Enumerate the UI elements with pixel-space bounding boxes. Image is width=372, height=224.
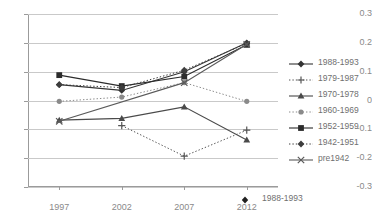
series-line — [59, 45, 247, 86]
data-point — [243, 127, 250, 134]
data-point — [118, 122, 125, 129]
gridline — [28, 187, 278, 188]
series-pre1942 — [56, 41, 250, 124]
y-axis-tick-label: -0.3 — [348, 182, 372, 191]
legend-item-label: 1942-1951 — [318, 136, 359, 148]
x-axis-tick-label: 2007 — [164, 202, 204, 212]
data-point — [119, 94, 124, 99]
plot-area — [28, 14, 278, 187]
x-axis-tick-label: 2002 — [102, 202, 142, 212]
plus-marker-icon — [288, 72, 314, 84]
legend-item-1952-1959[interactable]: 1952-1959 — [288, 118, 372, 134]
data-point — [56, 81, 63, 88]
legend-item-label: 1979-1987 — [318, 72, 359, 84]
series-line — [59, 43, 247, 91]
data-point — [181, 74, 187, 80]
legend: 1988-19931979-19871970-19781960-19691952… — [288, 54, 372, 166]
diamond-marker-icon — [232, 192, 258, 204]
series-1952-1959 — [56, 42, 249, 89]
y-axis-tick-label: 0.3 — [348, 9, 372, 18]
x-axis-tick-mark — [59, 186, 60, 190]
data-point — [181, 153, 188, 160]
legend-item-label: 1952-1959 — [318, 120, 359, 132]
legend-item-1979-1987[interactable]: 1979-1987 — [288, 70, 372, 86]
data-point — [57, 99, 62, 104]
x-axis-tick-mark — [184, 186, 185, 190]
data-point — [244, 99, 249, 104]
x-axis-tick-label: 1997 — [39, 202, 79, 212]
legend-item-label: pre1942 — [318, 152, 349, 164]
legend-item-label: 1970-1978 — [318, 88, 359, 100]
stray-legend-item: 1988-1993 — [232, 192, 303, 204]
legend-item-label: 1960-1969 — [318, 104, 359, 116]
series-1970-1978 — [56, 103, 250, 142]
data-point — [181, 103, 188, 109]
chart-title — [0, 0, 372, 4]
legend-item-1970-1978[interactable]: 1970-1978 — [288, 86, 372, 102]
series-1942-1951 — [56, 40, 250, 91]
stray-legend-label: 1988-1993 — [262, 192, 303, 204]
legend-item-pre1942[interactable]: pre1942 — [288, 150, 372, 166]
chart-container: 0.30.20.10-0.1-0.2-0.3 1997200220072012 … — [0, 0, 372, 224]
data-point — [243, 137, 250, 143]
legend-item-1960-1969[interactable]: 1960-1969 — [288, 102, 372, 118]
series-line — [59, 107, 247, 140]
series-1979-1987 — [118, 122, 250, 160]
diamond-marker-icon — [288, 56, 314, 68]
triangle-marker-icon — [288, 88, 314, 100]
series-layer — [28, 14, 278, 187]
data-point — [56, 72, 62, 78]
x-axis-tick-mark — [247, 186, 248, 190]
legend-item-1942-1951[interactable]: 1942-1951 — [288, 134, 372, 150]
diamond-marker-icon — [288, 136, 314, 148]
square-marker-icon — [288, 120, 314, 132]
x-axis-tick-mark — [122, 186, 123, 190]
legend-item-1988-1993[interactable]: 1988-1993 — [288, 54, 372, 70]
series-1988-1993 — [56, 39, 250, 93]
circle-marker-icon — [288, 104, 314, 116]
y-axis-tick-label: 0.2 — [348, 38, 372, 47]
cross-marker-icon — [288, 152, 314, 164]
legend-item-label: 1988-1993 — [318, 56, 359, 68]
